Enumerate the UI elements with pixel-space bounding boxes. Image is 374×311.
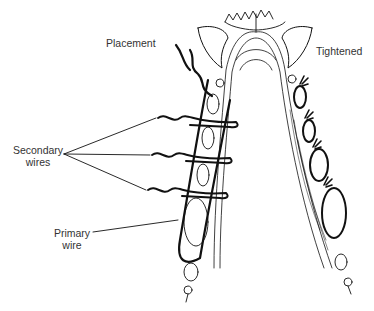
placement-label: Placement xyxy=(106,37,156,49)
secondary-wires-label-line2: wires xyxy=(10,156,66,168)
leader-lines xyxy=(64,118,178,232)
tightened-label: Tightened xyxy=(316,45,362,57)
secondary-wires-label: Secondary wires xyxy=(10,144,66,168)
primary-wire-label: Primary wire xyxy=(52,227,92,251)
dental-wiring-diagram: Placement Tightened Secondary wires Prim… xyxy=(0,0,374,311)
mandible-rami xyxy=(198,26,312,68)
mandible-bone xyxy=(214,32,332,268)
incisor-teeth xyxy=(225,10,285,32)
primary-wire-label-line2: wire xyxy=(52,239,92,251)
secondary-wires-label-line1: Secondary xyxy=(10,144,66,156)
primary-wire-label-line1: Primary xyxy=(52,227,92,239)
